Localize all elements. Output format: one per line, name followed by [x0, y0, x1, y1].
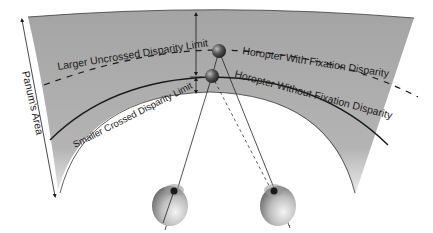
fixation-point-without-disparity-icon [205, 69, 219, 83]
right-eye-icon [260, 184, 296, 226]
fixation-point-with-disparity-icon [212, 44, 226, 58]
left-eye-icon [152, 184, 188, 226]
binocular-vision-diagram: Larger Uncrossed Disparity Limit Smaller… [0, 0, 433, 233]
